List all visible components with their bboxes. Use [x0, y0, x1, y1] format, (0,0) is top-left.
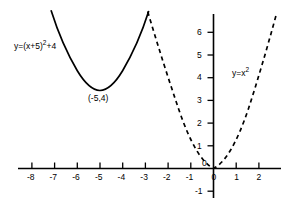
- curve-label-solid-parabola: y=(x+5)2+4: [14, 42, 56, 51]
- x-tick-label--2: -2: [163, 173, 171, 182]
- curve-label-solid-main: y=(x+5): [14, 41, 43, 51]
- curve-solid-shifted-parabola: [51, 11, 148, 91]
- x-tick-label--4: -4: [118, 173, 126, 182]
- x-tick-label--1: -1: [186, 173, 194, 182]
- x-tick-label--8: -8: [27, 173, 35, 182]
- x-tick-label--5: -5: [95, 173, 103, 182]
- vertex-coordinate-label: (-5,4): [88, 94, 108, 103]
- y-tick-label-4: 4: [197, 73, 202, 82]
- x-tick-label-0: 0: [212, 173, 217, 182]
- y-tick-label-1: 1: [197, 142, 202, 151]
- y-tick-label-6: 6: [197, 28, 202, 37]
- y-tick-label-3: 3: [197, 96, 202, 105]
- y-tick-label--1: -1: [195, 187, 203, 196]
- x-tick-label-2: 2: [256, 173, 261, 182]
- x-axis-ticks: [32, 163, 259, 169]
- curve-label-dashed-main: y=x: [232, 68, 245, 78]
- curve-label-dashed-parabola: y=x2: [232, 69, 249, 78]
- parabola-graph-figure: -8 -7 -6 -5 -4 -3 -2 -1 0 1 2 6 5 4 3 2 …: [0, 0, 290, 204]
- x-tick-label--6: -6: [72, 173, 80, 182]
- curve-label-solid-tail: +4: [46, 41, 56, 51]
- curve-label-dashed-exponent: 2: [245, 66, 249, 73]
- curve-dashed-base-parabola: [148, 12, 276, 169]
- x-tick-label-1: 1: [234, 173, 239, 182]
- y-tick-label-5: 5: [197, 51, 202, 60]
- y-tick-label-0: 0: [202, 159, 207, 168]
- x-tick-label--7: -7: [50, 173, 58, 182]
- x-tick-label--3: -3: [140, 173, 148, 182]
- y-axis-ticks: [208, 32, 214, 191]
- y-tick-label-2: 2: [197, 119, 202, 128]
